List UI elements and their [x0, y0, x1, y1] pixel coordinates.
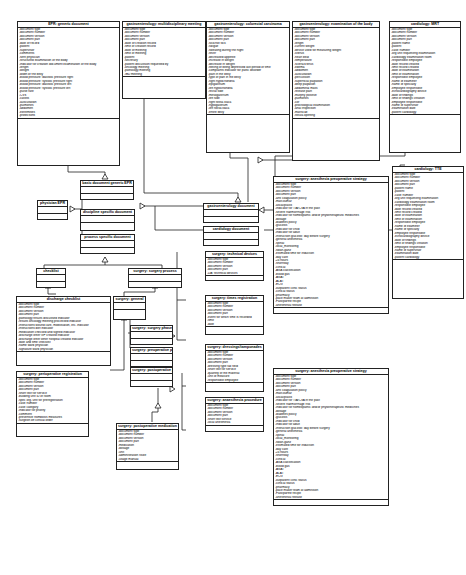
- attribute: -fistula opening: [294, 114, 378, 117]
- operations-compartment: [390, 115, 460, 120]
- attribute-list: [81, 241, 134, 248]
- attribute: -date: [207, 323, 262, 326]
- operations-compartment: [123, 77, 205, 82]
- operations-compartment: [206, 383, 263, 388]
- attribute-list: [81, 216, 134, 223]
- attribute-list: -document type-document number-document …: [206, 351, 263, 383]
- operations-compartment: [206, 276, 263, 281]
- class-surgery-dressings-tamponades[interactable]: surgery: dressings/tamponades -document …: [205, 344, 264, 392]
- operations-compartment: [393, 260, 463, 265]
- class-epr-generic-document[interactable]: EPR: generic document -document type-doc…: [17, 21, 120, 166]
- attribute-list: -document type-document number-document …: [393, 173, 463, 260]
- class-surgery-technical-devices[interactable]: surgery: technical devices -document typ…: [205, 251, 264, 281]
- class-process-specific-document[interactable]: process specific document: [80, 234, 135, 254]
- class-basic-document-generic-epr[interactable]: basic document generic EPR: [80, 180, 134, 200]
- class-discharge-checklist[interactable]: discharge checklist -document type-docum…: [16, 296, 111, 366]
- attribute: -IBD meeting: [124, 73, 204, 76]
- class-surgery-preoperative-phase[interactable]: surgery: preoperative phase: [130, 347, 173, 367]
- attribute-list: [131, 332, 172, 339]
- attribute-list: -document type-document number-document …: [18, 28, 119, 119]
- attribute-list: -document type-document number-document …: [117, 430, 178, 462]
- class-checklist[interactable]: checklist: [36, 268, 66, 288]
- attribute: -surgeon off clinical order: [18, 419, 87, 422]
- attribute: -protections: [19, 114, 118, 117]
- attribute-list: [114, 303, 145, 310]
- attribute: -signature ward physician: [18, 348, 109, 351]
- class-cardiology-tte[interactable]: cardiology: TTE -document type-document …: [392, 166, 464, 299]
- class-surgery-postoperative-phase[interactable]: surgery: postoperative phase: [130, 367, 173, 387]
- attribute-list: -document type-document number-document …: [206, 302, 263, 327]
- attribute: -anesthesia release: [275, 496, 387, 499]
- attribute: -responsible employee: [207, 379, 262, 382]
- attribute-list: -document type-document number-document …: [206, 258, 263, 276]
- attribute: -usage manual: [118, 458, 177, 461]
- attribute-list: [204, 233, 258, 240]
- class-surgery-surgery-phase[interactable]: surgery: surgery phase: [130, 325, 173, 345]
- class-gastro-examination-body[interactable]: gastroenterology: examination of the bod…: [292, 21, 380, 161]
- attribute-list: -document type-document number-document …: [207, 28, 289, 115]
- class-gastro-multidisciplinary-meeting[interactable]: gastroenterology: multidisciplinary meet…: [122, 21, 206, 99]
- class-surgery-surgery-process[interactable]: surgery: surgery process: [128, 268, 182, 288]
- class-surgery-postoperative-medication[interactable]: surgery: postoperative medication -docum…: [116, 423, 179, 470]
- attribute-list: -document type-document number-document …: [17, 378, 88, 424]
- attribute-list: [37, 275, 65, 282]
- operations-compartment: [274, 500, 388, 505]
- class-surgery-times-registration[interactable]: surgery: times registration -document ty…: [205, 295, 264, 335]
- class-cardiology-mrt[interactable]: cardiology: MRT -document type-document …: [389, 21, 461, 153]
- attribute-list: -document type-document number-document …: [293, 28, 379, 119]
- attribute-list: -document type-document number-document …: [206, 404, 263, 426]
- class-surgery-anaesthesia-procedure[interactable]: surgery: anaesthesia procedure -document…: [205, 397, 264, 432]
- attribute-list: [81, 187, 133, 194]
- attribute-list: [38, 207, 67, 214]
- attribute-list: [131, 374, 172, 381]
- class-cardiology-document[interactable]: cardiology document: [203, 226, 259, 246]
- attribute-list: [204, 210, 258, 217]
- class-surgery-perioperative-registration[interactable]: surgery: perioperative registration -doc…: [16, 371, 89, 437]
- operations-compartment: [17, 352, 110, 357]
- attribute-list: [131, 354, 172, 361]
- class-physician-epr[interactable]: physician EPR: [37, 200, 68, 220]
- class-gastroenterology-document[interactable]: gastroenterology document: [203, 203, 259, 223]
- operations-compartment: [18, 119, 119, 124]
- attribute-list: -document type-document number-document …: [390, 28, 460, 115]
- attribute: -entire belly: [208, 111, 288, 114]
- class-anesthesia-preoperative-strategy-1[interactable]: surgery: anesthesia preoperative strateg…: [273, 176, 389, 314]
- operations-compartment: [293, 119, 379, 124]
- operations-compartment: [274, 308, 388, 313]
- attribute: -local anesthesia: [207, 421, 262, 424]
- attribute-list: [129, 275, 181, 282]
- class-anesthesia-preoperative-strategy-2[interactable]: surgery: anesthesia preoperative strateg…: [273, 368, 389, 506]
- attribute: -patient cardiology: [394, 256, 462, 259]
- attribute: -DA: technical devices: [207, 272, 262, 275]
- attribute: -patient cardiology: [391, 111, 459, 114]
- attribute-list: -document type-document number-document …: [274, 183, 388, 308]
- attribute: -anesthesia release: [275, 304, 387, 307]
- attribute-list: -document type-document number-document …: [17, 303, 110, 352]
- operations-compartment: [206, 426, 263, 431]
- attribute-list: -document type-document number-document …: [274, 375, 388, 500]
- operations-compartment: [17, 424, 88, 429]
- attribute-list: -document type-document number-document …: [123, 28, 205, 77]
- operations-compartment: [117, 462, 178, 467]
- class-discipline-specific-document[interactable]: discipline specific document: [80, 209, 135, 231]
- class-surgery-general[interactable]: surgery: general: [113, 296, 146, 320]
- operations-compartment: [206, 327, 263, 332]
- operations-compartment: [207, 115, 289, 120]
- class-gastro-colorectal-carcinoma[interactable]: gastroenterology: colorectal carcinoma -…: [206, 21, 290, 153]
